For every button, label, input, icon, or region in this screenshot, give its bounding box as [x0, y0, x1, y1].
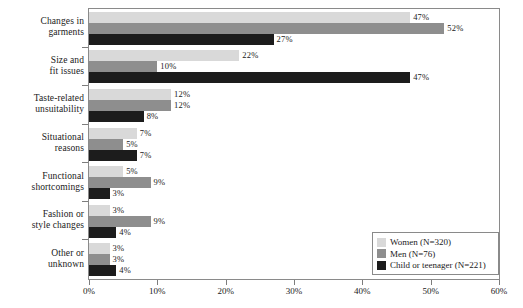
bar-value-label: 4%	[119, 227, 131, 238]
x-axis-tick	[157, 280, 158, 285]
bar-value-label: 47%	[413, 12, 429, 23]
legend-item: Child or teenager (N=221)	[377, 260, 494, 271]
bar	[89, 128, 137, 139]
x-axis-tick	[362, 280, 363, 285]
y-axis-label-line: reasons	[0, 143, 84, 154]
bar	[89, 265, 116, 276]
x-axis-tick-label: 30%	[286, 286, 303, 297]
bar-value-label: 3%	[113, 243, 125, 254]
y-axis-label-line: Taste-related	[0, 93, 84, 104]
x-axis-tick	[499, 280, 500, 285]
bar	[89, 111, 144, 122]
y-axis-label-line: Fashion or	[0, 209, 84, 220]
bar	[89, 23, 444, 34]
bar-value-label: 27%	[277, 34, 293, 45]
y-axis-label-line: unknown	[0, 259, 84, 270]
bar-chart: Changes ingarmentsSize andfit issuesTast…	[0, 0, 523, 308]
x-axis-tick-label: 60%	[491, 286, 508, 297]
bar	[89, 188, 110, 199]
bar-value-label: 12%	[174, 100, 190, 111]
y-axis-label-line: shortcomings	[0, 182, 84, 193]
bar	[89, 61, 157, 72]
x-axis-tick-label: 10%	[149, 286, 166, 297]
legend-label: Women (N=320)	[390, 237, 451, 247]
y-axis-label: Size andfit issues	[0, 55, 84, 77]
bar	[89, 227, 116, 238]
bar-value-label: 4%	[119, 265, 131, 276]
bar	[89, 243, 110, 254]
y-axis-label-line: Size and	[0, 55, 84, 66]
legend-swatch-icon	[377, 249, 386, 258]
y-axis-label-line: Changes in	[0, 16, 84, 27]
y-axis-label: Changes ingarments	[0, 16, 84, 38]
bar	[89, 34, 274, 45]
bar-value-label: 7%	[140, 150, 152, 161]
y-axis-label-line: Situational	[0, 132, 84, 143]
legend-item: Women (N=320)	[377, 237, 494, 248]
x-axis-tick	[89, 280, 90, 285]
bar	[89, 177, 151, 188]
y-axis-label: Taste-relatedunsuitability	[0, 93, 84, 115]
x-axis-tick	[226, 280, 227, 285]
bar	[89, 205, 110, 216]
y-axis-label-line: garments	[0, 27, 84, 38]
y-axis-tick	[82, 162, 88, 163]
y-axis-tick	[82, 47, 88, 48]
y-axis-label: Functionalshortcomings	[0, 171, 84, 193]
y-axis-label-line: unsuitability	[0, 104, 84, 115]
x-axis-tick-label: 50%	[422, 286, 439, 297]
bar	[89, 72, 410, 83]
bar	[89, 139, 123, 150]
y-axis-label: Other orunknown	[0, 248, 84, 270]
x-axis-tick-label: 40%	[354, 286, 371, 297]
legend-swatch-icon	[377, 238, 386, 247]
bar-value-label: 12%	[174, 89, 190, 100]
bar-value-label: 3%	[113, 205, 125, 216]
legend-label: Men (N=76)	[390, 249, 435, 259]
bar	[89, 100, 171, 111]
y-axis-label-line: style changes	[0, 220, 84, 231]
legend-label: Child or teenager (N=221)	[390, 260, 486, 270]
y-axis-tick	[82, 201, 88, 202]
y-axis-label-line: Other or	[0, 248, 84, 259]
y-axis-label: Fashion orstyle changes	[0, 209, 84, 231]
bar-value-label: 3%	[113, 254, 125, 265]
bar	[89, 254, 110, 265]
x-axis-tick	[294, 280, 295, 285]
bar	[89, 166, 123, 177]
y-axis-label: Situationalreasons	[0, 132, 84, 154]
y-axis-tick	[82, 85, 88, 86]
bar	[89, 50, 239, 61]
x-axis-tick-label: 20%	[217, 286, 234, 297]
bar	[89, 216, 151, 227]
legend-swatch-icon	[377, 261, 386, 270]
bar-value-label: 22%	[242, 50, 258, 61]
y-axis-label-line: fit issues	[0, 66, 84, 77]
bar-value-label: 5%	[126, 139, 138, 150]
y-axis-tick	[82, 239, 88, 240]
bar-value-label: 9%	[154, 216, 166, 227]
x-axis-tick-label: 0%	[83, 286, 95, 297]
bar-value-label: 5%	[126, 166, 138, 177]
x-axis-tick	[431, 280, 432, 285]
y-axis-category-labels: Changes ingarmentsSize andfit issuesTast…	[0, 8, 84, 280]
bar-value-label: 7%	[140, 128, 152, 139]
bar-value-label: 9%	[154, 177, 166, 188]
x-axis: 0%10%20%30%40%50%60%	[88, 280, 500, 306]
bar-value-label: 8%	[147, 111, 159, 122]
bar	[89, 89, 171, 100]
y-axis-tick	[82, 124, 88, 125]
bar-value-label: 47%	[413, 72, 429, 83]
chart-legend: Women (N=320)Men (N=76)Child or teenager…	[372, 232, 499, 275]
bar	[89, 12, 410, 23]
bar-value-label: 52%	[447, 23, 463, 34]
legend-item: Men (N=76)	[377, 248, 494, 259]
y-axis-label-line: Functional	[0, 171, 84, 182]
bar	[89, 150, 137, 161]
bar-value-label: 10%	[160, 61, 176, 72]
bar-value-label: 3%	[113, 188, 125, 199]
